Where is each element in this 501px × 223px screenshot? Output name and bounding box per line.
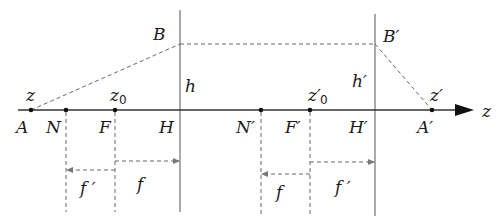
label-right-f: f	[274, 182, 285, 202]
label-z0-prime: z′	[307, 85, 321, 105]
label-b: B	[152, 24, 166, 44]
label-axis-z: z	[481, 101, 492, 121]
label-b-prime: B′	[382, 26, 399, 46]
label-h-prime-height: h′	[352, 71, 367, 91]
label-h-height: h	[185, 76, 196, 96]
label-z: z	[25, 85, 36, 105]
label-f-prime: F′	[284, 117, 301, 137]
label-a: A	[14, 117, 28, 137]
label-h: H	[158, 117, 175, 137]
ray-b-prime-to-a-prime	[375, 44, 432, 110]
label-n-prime: N′	[235, 117, 255, 137]
label-z0-prime-sub: 0	[320, 93, 328, 107]
label-f: F	[98, 117, 112, 137]
point-f	[113, 108, 118, 113]
point-n-prime	[259, 108, 264, 113]
label-right-f-prime: f ′	[333, 177, 351, 197]
point-a	[29, 108, 34, 113]
label-h-prime: H′	[348, 117, 368, 137]
ray-a-to-b	[31, 44, 180, 110]
label-n: N	[45, 117, 62, 137]
point-a-prime	[430, 108, 435, 113]
label-z-prime: z′	[429, 85, 443, 105]
label-left-f: f	[135, 174, 146, 194]
axis-arrow-icon	[455, 104, 474, 116]
label-left-f-prime: f ′	[78, 178, 96, 198]
label-z0-sub: 0	[119, 93, 127, 107]
point-n	[64, 108, 69, 113]
label-a-prime: A′	[415, 117, 433, 137]
optical-diagram: A N F H N′ F′ H′ A′ z z z 0 z′ 0 z′ B B′…	[0, 0, 501, 223]
point-f-prime	[308, 108, 313, 113]
